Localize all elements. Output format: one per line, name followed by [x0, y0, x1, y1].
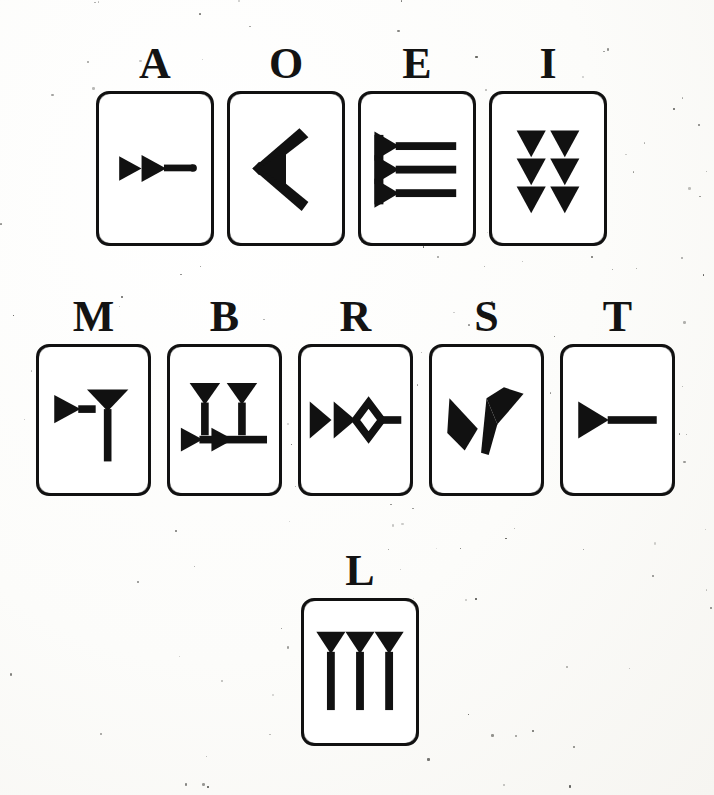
cuneiform-sign-icon-e — [361, 94, 473, 243]
card-letter-label-i: I — [539, 42, 556, 86]
card-letter-label-s: S — [474, 295, 498, 339]
sign-card-l[interactable]: L — [301, 549, 419, 746]
sign-card-r[interactable]: R — [298, 295, 413, 496]
card-letter-label-l: L — [345, 549, 374, 593]
cuneiform-sign-icon-r — [301, 347, 410, 493]
sign-card-t[interactable]: T — [560, 295, 675, 496]
card-letter-label-t: T — [603, 295, 632, 339]
cuneiform-sign-icon-o — [230, 94, 342, 243]
card-letter-label-m: M — [73, 295, 115, 339]
card-frame-a[interactable] — [96, 91, 214, 246]
card-row-3: L — [301, 549, 419, 746]
sign-card-m[interactable]: M — [36, 295, 151, 496]
sign-chart-sheet: AOEIMBRSTL — [0, 0, 714, 795]
sign-card-s[interactable]: S — [429, 295, 544, 496]
card-frame-b[interactable] — [167, 344, 282, 496]
sign-card-b[interactable]: B — [167, 295, 282, 496]
cuneiform-sign-icon-m — [39, 347, 148, 493]
cuneiform-sign-icon-b — [170, 347, 279, 493]
sign-card-a[interactable]: A — [96, 42, 214, 246]
card-letter-label-o: O — [269, 42, 303, 86]
card-frame-o[interactable] — [227, 91, 345, 246]
sign-card-o[interactable]: O — [227, 42, 345, 246]
card-letter-label-b: B — [210, 295, 239, 339]
card-row-2: MBRST — [36, 295, 675, 496]
card-frame-s[interactable] — [429, 344, 544, 496]
sign-card-i[interactable]: I — [489, 42, 607, 246]
cuneiform-sign-icon-t — [563, 347, 672, 493]
card-frame-e[interactable] — [358, 91, 476, 246]
card-letter-label-a: A — [139, 42, 171, 86]
card-letter-label-e: E — [402, 42, 431, 86]
card-frame-m[interactable] — [36, 344, 151, 496]
cuneiform-sign-icon-a — [99, 94, 211, 243]
card-frame-l[interactable] — [301, 598, 419, 746]
card-letter-label-r: R — [340, 295, 372, 339]
card-row-1: AOEI — [96, 42, 607, 246]
card-frame-r[interactable] — [298, 344, 413, 496]
sign-card-e[interactable]: E — [358, 42, 476, 246]
cuneiform-sign-icon-l — [304, 601, 416, 743]
cuneiform-sign-icon-i — [492, 94, 604, 243]
card-frame-t[interactable] — [560, 344, 675, 496]
card-frame-i[interactable] — [489, 91, 607, 246]
cuneiform-sign-icon-s — [432, 347, 541, 493]
